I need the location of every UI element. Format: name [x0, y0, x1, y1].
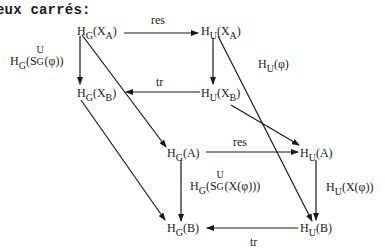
argument: (A) — [183, 146, 200, 160]
label-right-vertical: HU(X(φ)) — [326, 181, 373, 197]
subscript: G — [217, 182, 224, 192]
paren-close: ) — [112, 86, 116, 100]
subscript: U — [309, 152, 316, 163]
h-symbol: H — [167, 146, 176, 160]
h-symbol: H — [201, 24, 210, 38]
paren-open: (X — [217, 24, 230, 38]
node-hg-xb: HG(XB) — [77, 87, 116, 103]
paren-close: ) — [237, 24, 241, 38]
label-res-top: res — [151, 14, 165, 26]
sup-sub-stack: UG — [37, 55, 45, 65]
paren-open: (X — [93, 24, 106, 38]
h-symbol: H — [10, 54, 19, 68]
paren-open: (S — [206, 179, 217, 193]
label-inner-vertical: HG(SUG(X(φ))) — [190, 180, 260, 196]
subscript: G — [176, 227, 183, 238]
paren-close: ) — [113, 24, 117, 38]
h-symbol: H — [326, 180, 335, 194]
node-hu-xb: HU(XB) — [201, 87, 240, 103]
arrow-diag-hgxb-hgb — [81, 100, 165, 220]
label-tr-bottom: tr — [250, 236, 257, 248]
label-tr-middle: tr — [156, 76, 163, 88]
subscript: G — [86, 92, 93, 103]
h-symbol: H — [167, 221, 176, 235]
argument: (B) — [316, 221, 332, 235]
subscript: G — [176, 152, 183, 163]
subscript: U — [210, 30, 217, 41]
subscript: A — [106, 30, 113, 41]
paren-close: (X(φ))) — [225, 179, 261, 193]
paren-close: ) — [236, 86, 240, 100]
subscript: U — [210, 92, 217, 103]
subscript: U — [267, 63, 274, 74]
paren-open: (X — [93, 86, 106, 100]
paren-open: (X — [217, 86, 230, 100]
subscript: G — [199, 185, 206, 196]
h-symbol: H — [258, 57, 267, 71]
subscript: A — [230, 30, 237, 41]
sup-sub-stack: UG — [217, 180, 225, 190]
label-res-bottom: res — [233, 136, 247, 148]
h-symbol: H — [300, 146, 309, 160]
node-hu-xa: HU(XA) — [201, 25, 241, 41]
subscript: U — [335, 186, 342, 197]
h-symbol: H — [190, 179, 199, 193]
label-left-vertical: HG(SUG(φ)) — [10, 55, 64, 71]
diagram-arrows — [0, 0, 385, 249]
node-hu-a: HU(A) — [300, 147, 333, 163]
argument: (φ) — [274, 57, 289, 71]
h-symbol: H — [201, 86, 210, 100]
argument: (B) — [183, 221, 199, 235]
paren-close: (φ)) — [45, 54, 64, 68]
subscript: U — [309, 227, 316, 238]
superscript: U — [37, 45, 44, 55]
node-hg-b: HG(B) — [167, 222, 199, 238]
label-right-diagonal: HU(φ) — [258, 58, 289, 74]
h-symbol: H — [300, 221, 309, 235]
node-hg-a: HG(A) — [167, 147, 200, 163]
argument: (A) — [316, 146, 333, 160]
superscript: U — [217, 170, 224, 180]
node-hu-b: HU(B) — [300, 222, 332, 238]
argument: (X(φ)) — [342, 180, 374, 194]
subscript: G — [19, 60, 26, 71]
paren-open: (S — [26, 54, 37, 68]
h-symbol: H — [77, 24, 86, 38]
h-symbol: H — [77, 86, 86, 100]
subscript: G — [86, 30, 93, 41]
node-hg-xa: HG(XA) — [77, 25, 117, 41]
subscript: G — [37, 57, 44, 67]
